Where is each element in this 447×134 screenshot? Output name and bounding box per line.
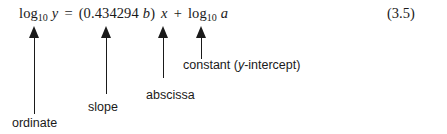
arrow-constant (196, 26, 207, 59)
equation-x-variable: x (161, 5, 168, 21)
arrow-shaft (201, 36, 202, 59)
label-ordinate: ordinate (12, 116, 57, 130)
equation-rhs-subscript: 10 (207, 12, 217, 23)
equation-coefficient: 0.434294 (84, 5, 139, 21)
arrow-ordinate (29, 26, 40, 114)
arrow-shaft (106, 36, 107, 94)
equation-equals-sign: = (64, 5, 72, 21)
equation-rhs-log: log (188, 5, 207, 21)
arrow-shaft (34, 36, 35, 114)
label-abscissa: abscissa (146, 88, 195, 102)
equation-lhs-subscript: 10 (38, 12, 48, 23)
equation-lhs-log: log (19, 5, 38, 21)
equation-expression: log10y=(0.434294b)x+log10a (19, 4, 228, 27)
equation-number: (3.5) (387, 4, 415, 22)
equation-plus-sign: + (174, 5, 182, 21)
equation-annotation-figure: log10y=(0.434294b)x+log10a (3.5) ordinat… (0, 0, 447, 134)
equation-lhs-variable: y (52, 5, 59, 21)
equation-rhs-variable: a (221, 5, 228, 21)
label-slope: slope (88, 100, 118, 114)
arrow-slope (101, 26, 112, 94)
label-constant: constant (y-intercept) (183, 58, 300, 72)
equation-close-paren: ) (150, 5, 155, 21)
arrow-shaft (163, 36, 164, 78)
arrow-abscissa (158, 26, 169, 78)
label-constant-prefix: constant ( (183, 58, 238, 72)
label-constant-suffix: -intercept) (244, 58, 300, 72)
